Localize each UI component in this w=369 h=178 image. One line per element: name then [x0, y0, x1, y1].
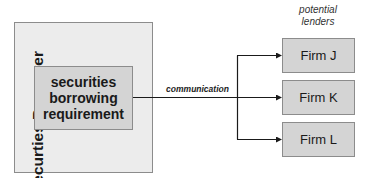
lenders-heading-line-2: lenders — [285, 16, 351, 28]
lenders-heading-line-1: potential — [285, 4, 351, 16]
firm-j-label: Firm J — [300, 48, 336, 63]
potential-lenders-heading: potential lenders — [285, 4, 351, 28]
firm-j-box: Firm J — [282, 38, 355, 73]
firm-l-box: Firm L — [282, 122, 355, 157]
firm-k-box: Firm K — [282, 80, 355, 115]
firm-k-label: Firm K — [299, 90, 337, 105]
firm-l-label: Firm L — [300, 132, 337, 147]
communication-label: communication — [160, 84, 235, 94]
